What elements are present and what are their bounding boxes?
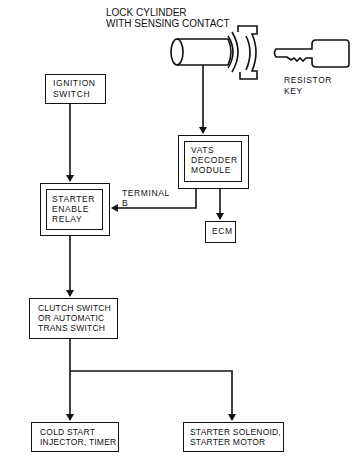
relay-line3: RELAY xyxy=(52,214,82,225)
starter-enable-relay-box: STARTER ENABLE RELAY xyxy=(40,183,110,236)
lock-cylinder-label-2: WITH SENSING CONTACT xyxy=(106,18,230,29)
resistor-key-label-1: RESISTOR xyxy=(284,75,332,86)
vats-decoder-module-box: VATS DECODER MODULE xyxy=(178,135,249,189)
ecm-label: ECM xyxy=(212,226,233,237)
starter-solenoid-line2: STARTER MOTOR xyxy=(190,437,265,448)
clutch-line3: TRANS SWITCH xyxy=(38,323,105,334)
cold-start-line2: INJECTOR, TIMER xyxy=(40,437,116,448)
lock-cylinder-icon xyxy=(171,26,257,79)
clutch-switch-box: CLUTCH SWITCH OR AUTOMATIC TRANS SWITCH xyxy=(29,298,118,339)
lock-cylinder-label-1: LOCK CYLINDER xyxy=(106,7,187,18)
vats-line3: MODULE xyxy=(191,165,231,176)
resistor-key-label-2: KEY xyxy=(284,86,303,97)
cold-start-box: COLD START INJECTOR, TIMER xyxy=(31,422,119,452)
resistor-key-icon xyxy=(275,40,350,67)
ignition-switch-box: IGNITION SWITCH xyxy=(45,74,106,104)
ecm-box: ECM xyxy=(205,221,236,243)
starter-solenoid-box: STARTER SOLENOID, STARTER MOTOR xyxy=(183,422,284,452)
ignition-switch-line2: SWITCH xyxy=(53,89,90,100)
ignition-switch-line1: IGNITION xyxy=(53,78,96,89)
terminal-label-1: TERMINAL xyxy=(122,188,170,199)
terminal-label-2: B xyxy=(122,198,128,209)
